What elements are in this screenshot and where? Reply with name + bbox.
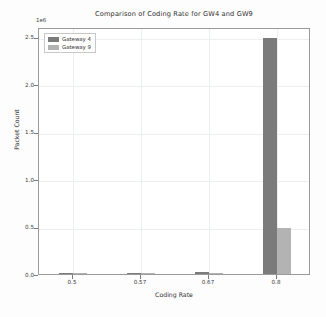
gridline-vertical xyxy=(209,29,210,274)
y-axis-offset-label: 1e6 xyxy=(36,17,46,23)
y-tick-label: 2.5 xyxy=(25,34,34,40)
gridline-vertical xyxy=(141,29,142,274)
y-tick-mark xyxy=(34,38,38,39)
legend-item: Gateway 9 xyxy=(48,44,91,50)
y-tick-mark xyxy=(34,85,38,86)
x-tick-label: 0.5 xyxy=(68,279,77,285)
x-tick-mark xyxy=(276,275,277,279)
legend-swatch-icon xyxy=(48,45,59,50)
bar xyxy=(59,273,73,274)
chart-figure: Comparison of Coding Rate for GW4 and GW… xyxy=(0,0,326,317)
y-tick-mark xyxy=(34,180,38,181)
bar xyxy=(141,273,155,274)
chart-title: Comparison of Coding Rate for GW4 and GW… xyxy=(38,10,310,18)
chart-legend: Gateway 4Gateway 9 xyxy=(44,33,96,53)
x-tick-label: 0.57 xyxy=(134,279,146,285)
y-tick-mark xyxy=(34,133,38,134)
x-tick-mark xyxy=(72,275,73,279)
legend-label: Gateway 4 xyxy=(62,36,91,42)
bar xyxy=(277,228,291,274)
bar xyxy=(73,273,87,274)
bar xyxy=(127,273,141,274)
y-axis-label: Packet Count xyxy=(13,90,20,170)
plot-area xyxy=(38,28,310,275)
y-tick-mark xyxy=(34,275,38,276)
y-tick-label: 1.0 xyxy=(25,177,34,183)
x-tick-label: 0.8 xyxy=(272,279,281,285)
y-tick-label: 0.5 xyxy=(25,224,34,230)
legend-label: Gateway 9 xyxy=(62,44,91,50)
x-tick-label: 0.67 xyxy=(202,279,214,285)
y-tick-label: 2.0 xyxy=(25,82,34,88)
bar xyxy=(195,272,209,274)
y-tick-label: 0.0 xyxy=(25,272,34,278)
y-tick-mark xyxy=(34,228,38,229)
legend-swatch-icon xyxy=(48,37,59,42)
x-axis-label: Coding Rate xyxy=(38,291,310,298)
x-tick-mark xyxy=(208,275,209,279)
y-tick-label: 1.5 xyxy=(25,129,34,135)
legend-item: Gateway 4 xyxy=(48,36,91,42)
gridline-vertical xyxy=(73,29,74,274)
x-tick-mark xyxy=(140,275,141,279)
bar xyxy=(209,273,223,274)
bar xyxy=(263,38,277,274)
